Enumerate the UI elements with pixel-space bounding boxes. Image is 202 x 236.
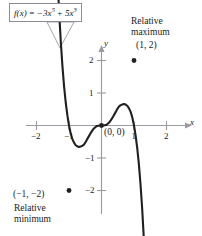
formula-term2-exponent: 3 [74, 6, 77, 13]
formula-fx: f(x) [14, 8, 27, 18]
y-tick-label-minus2: −2 [85, 185, 95, 195]
relative-maximum-line1: Relative [131, 16, 170, 27]
y-axis-name-label: y [104, 38, 108, 48]
x-tick-label-1: 1 [132, 131, 137, 141]
point-marker-relative-maximum [132, 58, 137, 63]
formula-equals: = [27, 8, 37, 18]
x-axis-name-label: x [190, 117, 194, 127]
relative-minimum-line2: minimum [14, 214, 51, 225]
formula-plus: + [55, 8, 65, 18]
relative-maximum-point-label: (1, 2) [136, 40, 157, 51]
relative-minimum-line1: Relative [14, 203, 51, 214]
function-formula-box: f(x) = −3x5 + 5x3 [9, 3, 82, 22]
y-tick-label-2: 2 [89, 55, 94, 65]
formula-term1: −3x [37, 8, 52, 18]
formula-term2: 5x [65, 8, 74, 18]
relative-minimum-annotation: Relative minimum [14, 203, 51, 224]
x-tick-label-2: 2 [164, 131, 169, 141]
origin-point-label: (0, 0) [104, 127, 125, 138]
plot-area-left-branch [0, 0, 202, 236]
x-tick-label-minus2: −2 [31, 131, 41, 141]
relative-maximum-annotation: Relative maximum [131, 16, 170, 37]
y-tick-label-minus1: −1 [85, 153, 95, 163]
relative-minimum-point-label: (−1, −2) [13, 189, 44, 200]
x-tick-label-minus1: −1 [64, 131, 74, 141]
point-marker-relative-minimum [67, 188, 72, 193]
figure-container: f(x) = −3x5 + 5x3 Relative maximum (1, 2… [0, 0, 202, 236]
y-tick-label-1: 1 [89, 88, 94, 98]
relative-maximum-line2: maximum [131, 27, 170, 38]
